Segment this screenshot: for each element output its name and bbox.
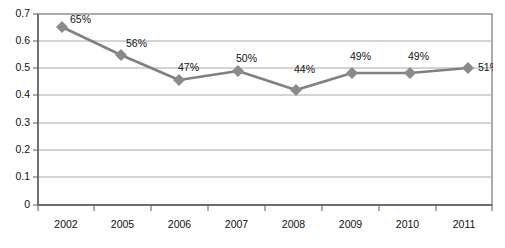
y-axis-label-0.1: 0.1 [0, 171, 30, 182]
y-axis-label-0.6: 0.6 [0, 35, 30, 46]
data-label-2002: 65% [70, 14, 91, 25]
y-axis-label-0.3: 0.3 [0, 117, 30, 128]
data-label-2009: 49% [350, 51, 371, 62]
y-axis-label-0.4: 0.4 [0, 89, 30, 100]
plot-area [0, 0, 505, 248]
data-label-2008: 44% [294, 64, 315, 75]
x-axis-label-2006: 2006 [151, 219, 208, 230]
data-label-2006: 47% [178, 62, 199, 73]
x-axis-label-2009: 2009 [322, 219, 379, 230]
y-axis-label-0.5: 0.5 [0, 62, 30, 73]
y-axis-label-0.2: 0.2 [0, 144, 30, 155]
y-axis-label-0: 0 [0, 199, 30, 210]
data-label-2005: 56% [126, 38, 147, 49]
plot-border [38, 14, 492, 205]
x-axis-label-2007: 2007 [208, 219, 265, 230]
line-chart: 0.7 0.6 0.5 0.4 0.3 0.2 0.1 0 2002 2005 … [0, 0, 505, 248]
y-axis-ticks [33, 14, 38, 205]
x-axis-label-2010: 2010 [379, 219, 436, 230]
x-axis-label-2002: 2002 [38, 219, 94, 230]
x-axis-label-2005: 2005 [94, 219, 151, 230]
x-axis-label-2008: 2008 [265, 219, 322, 230]
x-axis-label-2011: 2011 [436, 219, 492, 230]
y-axis-label-0.7: 0.7 [0, 8, 30, 19]
data-label-2007: 50% [236, 53, 257, 64]
x-axis-ticks [38, 205, 492, 211]
data-label-2010: 49% [408, 51, 429, 62]
right-edge-mask [493, 0, 505, 248]
